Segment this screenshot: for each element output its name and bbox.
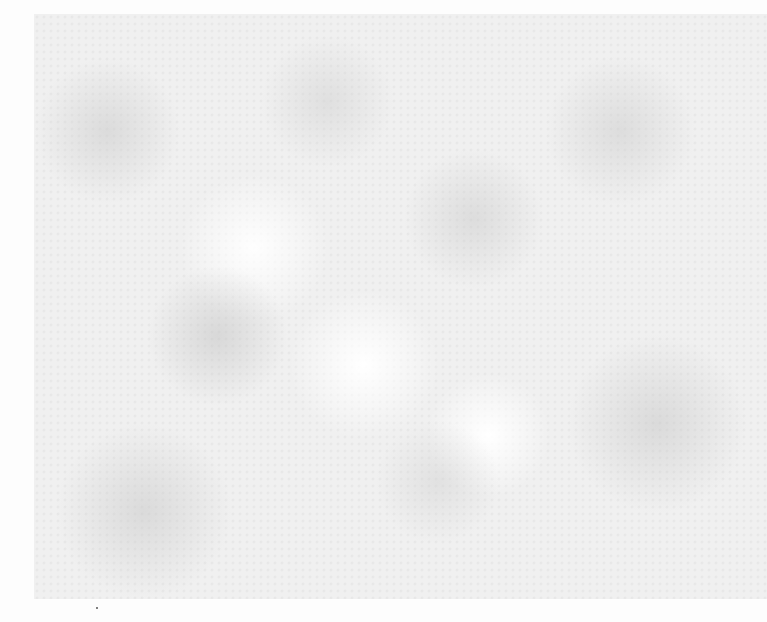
dust-speck xyxy=(96,607,98,609)
paper-texture xyxy=(34,14,767,599)
blank-page xyxy=(0,0,767,622)
